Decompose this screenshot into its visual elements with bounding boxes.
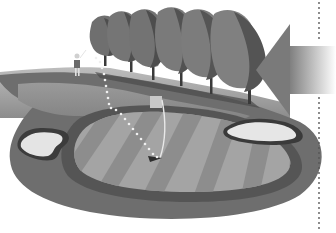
golf-illustration	[0, 0, 336, 233]
vertical-dotted-line	[318, 2, 320, 229]
